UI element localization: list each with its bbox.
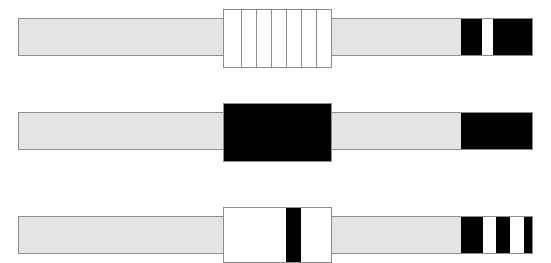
end-band-white-1-bar1 [482, 18, 493, 56]
end-band-black-1-bar2 [461, 112, 533, 150]
segment-divider-5-bar1 [301, 10, 302, 67]
segment-divider-2-bar1 [256, 10, 257, 67]
figure-canvas [0, 0, 551, 263]
segment-divider-1-bar1 [241, 10, 242, 67]
end-band-white-2-bar3 [510, 216, 524, 254]
end-band-black-1-bar1 [461, 18, 482, 56]
center-block-2 [223, 103, 332, 162]
end-band-black-1-bar3 [461, 216, 483, 254]
center-block-1 [223, 9, 332, 68]
segment-divider-3-bar1 [271, 10, 272, 67]
center-block-3 [223, 207, 332, 263]
centre-stripe-black-bar3 [286, 208, 301, 262]
segment-divider-4-bar1 [286, 10, 287, 67]
end-band-black-2-bar3 [496, 216, 510, 254]
end-band-black-2-bar1 [493, 18, 533, 56]
end-band-black-3-bar3 [524, 216, 533, 254]
end-band-white-1-bar3 [483, 216, 496, 254]
segment-divider-6-bar1 [316, 10, 317, 67]
